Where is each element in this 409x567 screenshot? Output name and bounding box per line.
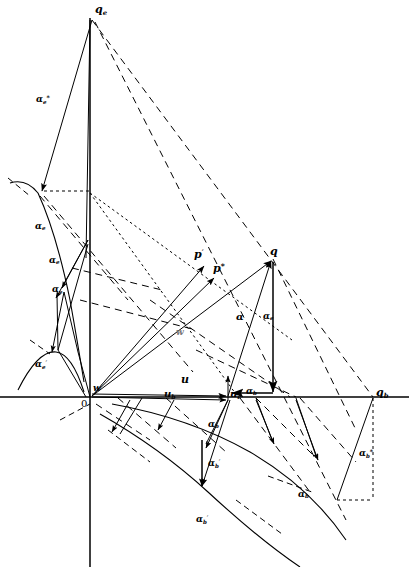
q-e-axis-label: qe — [95, 4, 107, 17]
origin-zero-label: 0 — [81, 399, 87, 409]
solid-vert-drop-b — [296, 398, 316, 456]
figure-root: qe αe* αe αe αe′ αe′ p′ p* q α αe w w′ u… — [0, 0, 409, 567]
lower-left-curve-tangent — [30, 340, 50, 354]
vector-p-star — [92, 278, 214, 396]
alpha-b-star-label: αb* — [359, 449, 373, 459]
q-point-label: q — [270, 246, 278, 257]
lower-curve-tangent-a — [108, 430, 150, 462]
alpha-e-prime-low-label: αe′ — [35, 360, 47, 370]
w-middle-label: w — [176, 328, 184, 337]
alpha-e-prime-mid-label: αe′ — [52, 285, 64, 295]
dash-mid-cluster-a — [72, 268, 162, 290]
dash-below-origin — [96, 404, 150, 440]
dash-through-q-downright — [273, 259, 356, 430]
dash-lower-d — [300, 398, 356, 462]
curve-tangent-upper — [8, 178, 30, 196]
dash-lower-e — [240, 398, 310, 492]
alpha-b-axis-label: αb — [246, 387, 257, 397]
alpha-e-upper-label: αe — [35, 222, 46, 232]
w-prime-label: w′ — [93, 384, 102, 393]
u-b-label: ub — [164, 389, 176, 400]
dotted-fan-a — [90, 193, 238, 397]
alpha-e-star-label: αe* — [36, 95, 50, 105]
u-e-label: ue — [230, 389, 241, 400]
vector-qe-to-upper-curve — [42, 20, 92, 191]
p-star-label: p* — [213, 263, 225, 274]
alpha-center-label: α — [236, 312, 244, 322]
lower-left-curve — [18, 352, 84, 392]
q-b-axis-label: qb — [376, 387, 388, 400]
alpha-b-prime-mid-label: αb′ — [208, 459, 221, 469]
lower-right-curve-main — [112, 404, 346, 540]
vector-u-origin-to-utip — [92, 394, 226, 396]
dash-lower-c — [256, 398, 316, 458]
p-prime-label: p′ — [194, 249, 204, 260]
solid-vert-drop-a — [256, 398, 272, 440]
alpha-e-mid-label: αe — [49, 256, 60, 266]
alpha-e-right-label: αe — [263, 312, 274, 322]
dotted-fan-b — [90, 193, 292, 340]
alpha-b-upper-label: αb — [208, 420, 219, 430]
vector-utip-to-q — [228, 261, 271, 396]
lower-curve-tangent-b — [236, 500, 282, 534]
lower-right-curve-second — [100, 414, 300, 567]
u-label: u — [181, 374, 189, 385]
solid-cluster-left-to-origin — [58, 350, 86, 397]
alpha-b-prime-low-label: αb′ — [196, 515, 209, 525]
dash-qe-to-qb — [92, 20, 373, 397]
alpha-b-right-label: αb — [298, 490, 309, 500]
diagram-canvas — [0, 0, 409, 567]
